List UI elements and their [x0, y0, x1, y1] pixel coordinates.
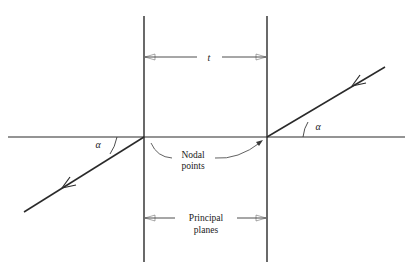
angle-label-right: α [315, 121, 321, 132]
nodal-leader-right [215, 142, 261, 158]
thickness-label: t [208, 52, 211, 63]
angle-label-left: α [95, 139, 101, 150]
diagram-canvas: α α t Principal planes Nodal points [0, 0, 413, 276]
incoming-ray-line [267, 67, 385, 137]
principal-planes-dimension: Principal planes [145, 213, 266, 235]
angle-arc-right [303, 122, 308, 137]
principal-planes-label-line2: planes [194, 225, 219, 235]
nodal-leader-left [151, 143, 172, 158]
nodal-points-callout: Nodal points [151, 140, 263, 171]
angle-arc-left [110, 137, 117, 154]
optics-ray-diagram: α α t Principal planes Nodal points [0, 0, 413, 276]
incoming-ray-arrowhead-icon [352, 75, 366, 86]
nodal-points-label-line2: points [181, 161, 205, 171]
outgoing-ray-line [24, 137, 144, 212]
nodal-points-label-line1: Nodal [181, 150, 205, 160]
thickness-dimension: t [145, 52, 266, 63]
principal-planes-label-line1: Principal [189, 213, 224, 223]
